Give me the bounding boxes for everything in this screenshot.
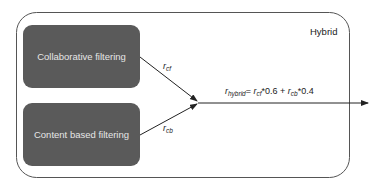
hybrid-formula: rhybrid= rcf*0.6 + rcb*0.4 xyxy=(225,86,314,98)
hybrid-label: Hybrid xyxy=(310,26,337,37)
content-based-filtering-label: Content based filtering xyxy=(34,129,129,140)
edge-cf xyxy=(140,57,197,101)
edge-cb-label: rcb xyxy=(163,123,173,134)
hybrid-diagram: Hybrid Collaborative filtering Content b… xyxy=(0,0,382,187)
collaborative-filtering-label: Collaborative filtering xyxy=(37,51,126,62)
edge-cf-label: rcf xyxy=(163,61,172,72)
